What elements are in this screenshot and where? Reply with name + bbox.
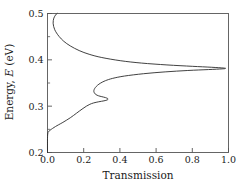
x-tick-label: 0.6 (149, 154, 164, 165)
y-tick-label: 0.2 (28, 147, 43, 158)
x-axis-title: Transmission (103, 169, 174, 181)
y-tick-label: 0.3 (28, 101, 43, 112)
x-tick-label: 0.4 (112, 154, 127, 165)
x-tick-label: 0.8 (185, 154, 200, 165)
y-tick-label: 0.5 (28, 8, 43, 19)
x-tick-label: 0.2 (76, 154, 91, 165)
y-tick-label: 0.4 (28, 54, 43, 65)
chart-canvas: 0.00.20.40.60.81.0 0.20.30.40.5 Transmis… (0, 0, 243, 188)
y-axis-title: Energy, E (eV) (3, 44, 15, 121)
svg-text:Energy, E (eV): Energy, E (eV) (3, 44, 15, 121)
x-tick-label: 1.0 (221, 154, 236, 165)
transmission-spectrum-figure: 0.00.20.40.60.81.0 0.20.30.40.5 Transmis… (0, 0, 243, 188)
